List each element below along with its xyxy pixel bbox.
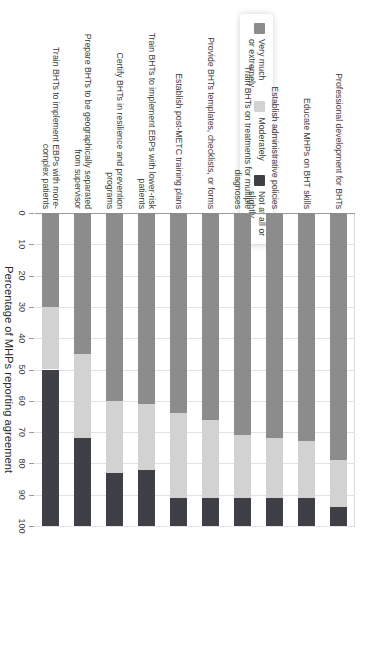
tick-mark <box>29 526 34 527</box>
bar-8 <box>107 213 124 526</box>
bar-segment-1 <box>139 213 156 404</box>
category-axis-labels: Professional development for BHTsEducate… <box>35 0 355 209</box>
tick-label-60: 60 <box>17 396 27 406</box>
category-label-7: Train BHTs to implement EBPs with lower-… <box>137 0 158 209</box>
tick-label-90: 90 <box>17 490 27 500</box>
bar-9 <box>75 213 92 526</box>
bar-5 <box>203 213 220 526</box>
bar-segment-1 <box>267 213 284 438</box>
tick-mark <box>29 495 34 496</box>
bar-segment-3 <box>299 498 316 526</box>
tick-label-20: 20 <box>17 271 27 281</box>
bar-1 <box>331 213 348 526</box>
bar-segment-1 <box>43 213 60 307</box>
tick-label-40: 40 <box>17 333 27 343</box>
bar-segment-2 <box>203 420 220 498</box>
bar-3 <box>267 213 284 526</box>
bar-segment-2 <box>139 404 156 470</box>
value-axis-title: Percentage of MHPs reporting agreement w… <box>0 213 15 526</box>
category-label-10: Train BHTs to implement EBPs with more- … <box>41 0 62 209</box>
tick-label-30: 30 <box>17 302 27 312</box>
tick-label-70: 70 <box>17 427 27 437</box>
bar-segment-1 <box>171 213 188 413</box>
bar-segment-2 <box>43 307 60 370</box>
bar-segment-1 <box>75 213 92 354</box>
category-label-2: Educate MHPs on BHT skills <box>302 0 312 209</box>
bar-segment-3 <box>43 370 60 527</box>
bar-segment-1 <box>299 213 316 441</box>
category-label-8: Certify BHTs in resilience and preventio… <box>105 0 126 209</box>
tick-mark <box>29 463 34 464</box>
tick-mark <box>29 244 34 245</box>
stacked-bar-chart: Very much or extremely Moderately Not at… <box>0 0 369 671</box>
category-label-3: Establish administrative policies <box>270 0 280 209</box>
bar-6 <box>171 213 188 526</box>
bar-4 <box>235 213 252 526</box>
bar-segment-2 <box>235 435 252 498</box>
rotated-figure-canvas: Very much or extremely Moderately Not at… <box>0 0 369 671</box>
tick-mark <box>29 213 34 214</box>
bar-segment-2 <box>331 460 348 507</box>
category-label-6: Establish post-METC training plans <box>174 0 184 209</box>
tick-label-80: 80 <box>17 458 27 468</box>
tick-mark <box>29 401 34 402</box>
category-label-4: Train BHTs on treatments for multiple di… <box>233 0 254 209</box>
tick-mark <box>29 276 34 277</box>
bar-segment-3 <box>235 498 252 526</box>
category-label-5: Provide BHTs templates, checklists, or f… <box>206 0 216 209</box>
tick-mark <box>29 432 34 433</box>
tick-label-0: 0 <box>17 210 27 215</box>
gridline <box>35 526 355 527</box>
category-label-1: Professional development for BHTs <box>334 0 344 209</box>
tick-label-50: 50 <box>17 364 27 374</box>
bar-10 <box>43 213 60 526</box>
bar-2 <box>299 213 316 526</box>
bar-segment-1 <box>235 213 252 435</box>
category-label-9: Prepare BHTs to be geographically separa… <box>73 0 94 209</box>
bar-segment-3 <box>139 470 156 526</box>
bar-segment-3 <box>75 438 92 526</box>
bar-segment-3 <box>171 498 188 526</box>
bar-segment-3 <box>267 498 284 526</box>
bar-segment-1 <box>331 213 348 460</box>
bar-segment-1 <box>107 213 124 401</box>
bar-segment-3 <box>203 498 220 526</box>
bar-segment-3 <box>107 473 124 526</box>
bar-segment-2 <box>267 438 284 497</box>
tick-mark <box>29 370 34 371</box>
bar-segment-2 <box>299 441 316 497</box>
tick-mark <box>29 307 34 308</box>
bar-segment-2 <box>171 413 188 498</box>
plot-area <box>35 213 355 526</box>
bar-segment-1 <box>203 213 220 420</box>
tick-label-10: 10 <box>17 239 27 249</box>
bar-segment-3 <box>331 507 348 526</box>
bar-7 <box>139 213 156 526</box>
tick-label-100: 100 <box>17 518 27 533</box>
bar-segment-2 <box>107 401 124 473</box>
tick-mark <box>29 338 34 339</box>
bar-segment-2 <box>75 354 92 439</box>
